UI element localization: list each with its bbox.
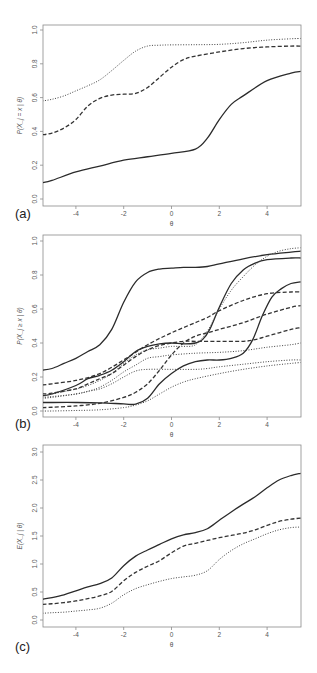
y-tick-label: 1.0 [31, 559, 38, 568]
y-tick-label: 0.4 [31, 127, 38, 136]
y-tick-label: 1.0 [31, 236, 38, 245]
x-tick-label: 2 [217, 421, 221, 428]
y-axis: 0.00.20.40.60.81.0P(X_j ≥ x | θ) [16, 236, 43, 415]
y-tick-label: 0.6 [31, 304, 38, 313]
series-group [42, 38, 300, 182]
x-tick-label: 2 [217, 210, 221, 217]
plot-frame [43, 25, 301, 206]
panel-b-label: (b) [15, 416, 31, 431]
y-tick-label: 0.4 [31, 338, 38, 347]
x-tick-label: 0 [170, 631, 174, 638]
x-axis: -4-2024θ [73, 627, 269, 648]
x-tick-label: -2 [121, 210, 127, 217]
y-tick-label: 0.2 [31, 372, 38, 381]
x-tick-label: 4 [265, 631, 269, 638]
chart-panel-a: -4-2024θ0.00.20.40.60.81.0P(X_j = x | θ) [16, 25, 301, 227]
x-axis-label: θ [170, 431, 174, 438]
x-tick-label: -4 [73, 421, 79, 428]
series-solid-2 [42, 258, 300, 396]
series-group [42, 473, 300, 613]
x-axis-label: θ [170, 220, 174, 227]
series-solid [42, 473, 300, 599]
y-tick-label: 0.0 [31, 194, 38, 203]
series-solid [42, 71, 300, 182]
figure: -4-2024θ0.00.20.40.60.81.0P(X_j = x | θ)… [0, 0, 317, 673]
y-axis-label: E(X_j | θ) [16, 523, 24, 550]
x-tick-label: -2 [121, 421, 127, 428]
y-tick-label: 0.0 [31, 615, 38, 624]
x-axis-label: θ [170, 641, 174, 648]
series-dotted-2 [42, 343, 300, 397]
y-axis: 0.00.20.40.60.81.0P(X_j = x | θ) [16, 25, 43, 203]
plot-canvas: -4-2024θ0.00.20.40.60.81.0P(X_j = x | θ)… [0, 0, 317, 673]
y-tick-label: 2.5 [31, 475, 38, 484]
chart-panel-c: -4-2024θ0.00.51.01.52.02.53.0E(X_j | θ) [16, 445, 301, 648]
series-dashed-2 [42, 328, 300, 394]
x-tick-label: 4 [265, 210, 269, 217]
x-axis: -4-2024θ [73, 206, 269, 227]
series-solid-1 [42, 251, 300, 370]
x-tick-label: 0 [170, 210, 174, 217]
y-tick-label: 0.6 [31, 93, 38, 102]
y-tick-label: 0.8 [31, 270, 38, 279]
y-tick-label: 3.0 [31, 447, 38, 456]
y-tick-label: 0.8 [31, 59, 38, 68]
y-axis: 0.00.51.01.52.02.53.0E(X_j | θ) [16, 447, 43, 624]
x-tick-label: -2 [121, 631, 127, 638]
plot-frame [43, 235, 301, 417]
x-tick-label: -4 [73, 631, 79, 638]
x-tick-label: 2 [217, 631, 221, 638]
panel-c-label: (c) [15, 639, 30, 654]
y-tick-label: 1.5 [31, 531, 38, 540]
x-tick-label: 0 [170, 421, 174, 428]
chart-panel-b: -4-2024θ0.00.20.40.60.81.0P(X_j ≥ x | θ) [16, 235, 301, 438]
series-dashed [42, 46, 300, 135]
y-axis-label: P(X_j = x | θ) [16, 97, 24, 135]
x-axis: -4-2024θ [73, 417, 269, 438]
series-group [42, 248, 300, 411]
y-tick-label: 1.0 [31, 25, 38, 34]
x-tick-label: -4 [73, 210, 79, 217]
y-tick-label: 0.0 [31, 406, 38, 415]
series-dashed [42, 518, 300, 604]
y-axis-label: P(X_j ≥ x | θ) [16, 307, 24, 344]
y-tick-label: 0.2 [31, 160, 38, 169]
x-tick-label: 4 [265, 421, 269, 428]
panel-a-label: (a) [15, 206, 31, 221]
y-tick-label: 0.5 [31, 587, 38, 596]
y-tick-label: 2.0 [31, 503, 38, 512]
series-dashed-3 [42, 306, 300, 408]
